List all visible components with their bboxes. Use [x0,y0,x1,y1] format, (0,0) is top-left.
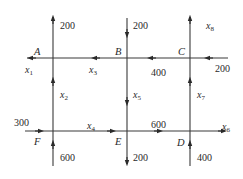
var-subscript: 8 [210,25,214,33]
flow-top-left-out: 200 [60,21,75,31]
flow-bottom-right-in: 400 [197,153,212,163]
flow-right-top-in: 200 [215,64,230,74]
flow-left-bottom-in: 300 [14,118,29,128]
node-e-label: E [115,137,121,147]
var-subscript: 7 [201,94,205,102]
var-subscript: 5 [137,94,141,102]
flow-bottom-middle-out: 200 [133,153,148,163]
flow-x4: x4 [87,121,95,134]
node-b-label: B [115,47,121,57]
node-f-label: F [34,137,40,147]
var-subscript: 4 [91,125,95,133]
var-subscript: 1 [29,69,33,77]
var-subscript: 6 [226,126,230,134]
flow-e-to-d: 600 [151,120,166,130]
flow-x6: x6 [222,122,230,135]
flow-x8: x8 [206,21,214,34]
flow-x2: x2 [60,90,68,103]
flow-x1: x1 [25,65,33,78]
node-a-label: A [34,47,40,57]
flow-x3: x3 [89,65,97,78]
flow-x7: x7 [197,90,205,103]
node-c-label: C [178,47,185,57]
flow-c-to-b: 400 [151,68,166,78]
flow-bottom-left-in: 600 [60,153,75,163]
node-d-label: D [177,138,185,148]
var-subscript: 3 [93,69,97,77]
flow-top-middle-in: 200 [133,21,148,31]
var-subscript: 2 [64,94,68,102]
flow-x5: x5 [133,90,141,103]
